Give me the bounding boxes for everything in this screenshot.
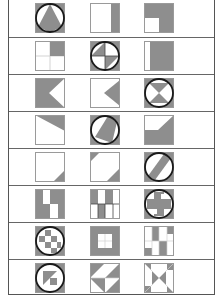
bottom-with-step-icon xyxy=(144,115,174,145)
tile-quadrants-in-circle xyxy=(90,41,120,71)
checkerboard-in-circle-icon xyxy=(35,226,65,256)
tile-checkerboard-in-circle xyxy=(35,226,65,256)
bottom-right-corner-triangle-icon xyxy=(35,152,65,182)
grid-row-8 xyxy=(9,259,214,296)
grid-row-5 xyxy=(9,148,214,185)
tile-l-shape-missing-bottom-left xyxy=(144,3,174,33)
tile-right-strip xyxy=(90,3,120,33)
framed-window-icon xyxy=(90,226,120,256)
puzzle-grid xyxy=(8,0,215,295)
tile-mostly-filled-left-strip xyxy=(144,41,174,71)
checker-columns-b-icon xyxy=(90,189,120,219)
checker-columns-a-icon xyxy=(35,189,65,219)
tile-bowtie-corners xyxy=(144,263,174,293)
tile-top-wedge xyxy=(35,115,65,145)
tile-pinwheel-triangles xyxy=(90,263,120,293)
tile-triangle-in-circle xyxy=(35,3,65,33)
grid-row-7 xyxy=(9,222,214,259)
tile-diagonal-triangles-in-circle xyxy=(35,263,65,293)
tile-checker-columns-b xyxy=(90,189,120,219)
grid-row-2 xyxy=(9,37,214,74)
tile-bottom-with-step xyxy=(144,115,174,145)
pinwheel-triangles-icon xyxy=(90,263,120,293)
hourglass-in-circle-icon xyxy=(144,78,174,108)
scattered-blocks-icon xyxy=(144,226,174,256)
top-right-quadrant-icon xyxy=(35,41,65,71)
top-wedge-icon xyxy=(35,115,65,145)
bowtie-corners-icon xyxy=(144,263,174,293)
grid-row-1 xyxy=(9,0,214,37)
grid-row-4 xyxy=(9,111,214,148)
triangle-pointing-left-icon xyxy=(90,78,120,108)
tile-triangle-pointing-left xyxy=(90,78,120,108)
l-shape-missing-bottom-left-icon xyxy=(144,3,174,33)
quadrants-in-circle-icon xyxy=(90,41,120,71)
mostly-filled-left-strip-icon xyxy=(144,41,174,71)
tile-hourglass-in-circle xyxy=(144,78,174,108)
diagonal-band-in-circle-icon xyxy=(144,152,174,182)
right-strip-icon xyxy=(90,3,120,33)
tile-two-corner-triangles xyxy=(90,152,120,182)
grid-row-3 xyxy=(9,74,214,111)
triangle-in-circle-icon xyxy=(35,3,65,33)
tile-top-right-quadrant xyxy=(35,41,65,71)
arrow-notch-right-icon xyxy=(35,78,65,108)
slanted-band-in-circle-icon xyxy=(90,115,120,145)
cross-in-circle-icon xyxy=(144,189,174,219)
tile-cross-in-circle xyxy=(144,189,174,219)
tile-slanted-band-in-circle xyxy=(90,115,120,145)
tile-bottom-right-corner-triangle xyxy=(35,152,65,182)
tile-diagonal-band-in-circle xyxy=(144,152,174,182)
diagonal-triangles-in-circle-icon xyxy=(35,263,65,293)
tile-checker-columns-a xyxy=(35,189,65,219)
tile-scattered-blocks xyxy=(144,226,174,256)
tile-framed-window xyxy=(90,226,120,256)
tile-arrow-notch-right xyxy=(35,78,65,108)
grid-row-6 xyxy=(9,185,214,222)
two-corner-triangles-icon xyxy=(90,152,120,182)
